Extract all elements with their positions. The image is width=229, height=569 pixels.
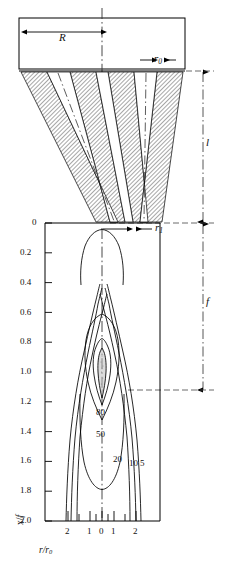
ytick-1.4: 1.4 — [20, 427, 31, 436]
label-R: R — [59, 32, 66, 43]
contour-label-20: 20 — [113, 455, 122, 464]
ytick-0.8: 0.8 — [20, 337, 31, 346]
contour-label-10: 10 — [129, 459, 138, 468]
ytick-0.6: 0.6 — [20, 308, 31, 317]
xaxis-title: r/r0 — [39, 546, 52, 556]
xtick-pos2: 2 — [133, 527, 138, 536]
xtick-pos1: 1 — [111, 527, 116, 536]
xtick-neg1: 1 — [87, 527, 92, 536]
ytick-1.2: 1.2 — [20, 397, 31, 406]
ytick-1.0: 1.0 — [20, 367, 31, 376]
label-l: l — [206, 137, 209, 148]
beam-focus-figure — [0, 0, 229, 569]
ytick-0.2: 0.2 — [20, 248, 31, 257]
label-r1: r1 — [155, 222, 163, 234]
ytick-1.8: 1.8 — [20, 486, 31, 495]
xtick-0: 0 — [99, 527, 104, 536]
yaxis-title: x/f — [16, 515, 26, 525]
ytick-0.4: 0.4 — [20, 278, 31, 287]
ytick-1.6: 1.6 — [20, 456, 31, 465]
contour-label-80: 80 — [96, 408, 105, 417]
ytick-0: 0 — [32, 218, 37, 227]
contour-label-50: 50 — [96, 430, 105, 439]
label-r0: r0 — [154, 53, 162, 65]
xtick-neg2: 2 — [65, 527, 70, 536]
contour-label-5: 5 — [140, 459, 145, 468]
label-f: f — [206, 296, 209, 307]
